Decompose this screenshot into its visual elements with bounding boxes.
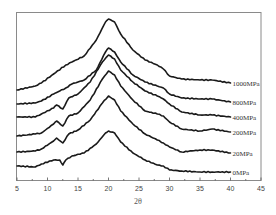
series-label-400mpa: 400MPa	[233, 114, 258, 122]
x-tick-label: 25	[135, 185, 143, 192]
series-labels: 1000MPa800MPa400MPa200MPa20MPa0MPa	[233, 80, 261, 177]
series-label-800mpa: 800MPa	[233, 99, 258, 107]
series-label-200mpa: 200MPa	[233, 129, 258, 137]
curve-800mpa	[17, 48, 231, 104]
x-tick-label: 20	[105, 185, 113, 192]
x-tick-label: 15	[74, 185, 82, 192]
x-tick-label: 45	[257, 185, 265, 192]
x-tick-label: 5	[15, 185, 19, 192]
x-tick-label: 30	[166, 185, 174, 192]
x-tick-label: 10	[44, 185, 52, 192]
x-axis-label: 2θ	[134, 197, 142, 206]
x-tick-label: 35	[196, 185, 204, 192]
x-tick-label: 40	[227, 185, 235, 192]
curve-1000mpa	[17, 19, 231, 90]
curve-200mpa	[17, 71, 231, 136]
x-axis-ticks: 51015202530354045	[15, 178, 265, 193]
xrd-chart: 51015202530354045 1000MPa800MPa400MPa200…	[0, 0, 276, 215]
series-curves	[17, 19, 231, 172]
plot-frame	[17, 13, 262, 181]
series-label-20mpa: 20MPa	[233, 150, 254, 158]
series-label-0mpa: 0MPa	[233, 169, 251, 177]
curve-0mpa	[17, 131, 231, 172]
series-label-1000mpa: 1000MPa	[233, 80, 261, 88]
